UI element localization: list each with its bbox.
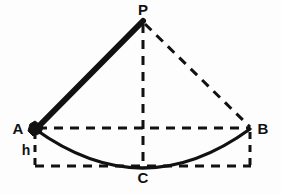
pendulum-diagram: P A B C h — [0, 0, 281, 194]
label-A: A — [13, 120, 24, 137]
label-P: P — [138, 1, 148, 18]
pendulum-string-PA — [37, 21, 143, 128]
label-h: h — [22, 142, 31, 158]
label-C: C — [138, 169, 149, 186]
pendulum-diagram-canvas: P A B C h — [0, 0, 281, 194]
pendulum-string-PB — [145, 24, 250, 127]
label-B: B — [258, 120, 269, 137]
swing-arc-ACB — [35, 129, 250, 168]
